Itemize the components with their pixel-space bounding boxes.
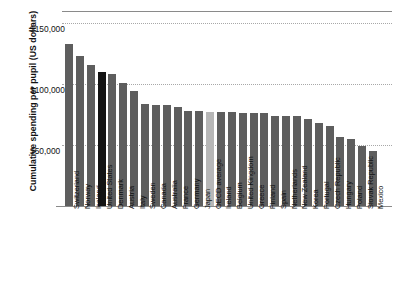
x-axis-tick-label: Canada [159,183,168,209]
y-axis-tick-label: $50,000 [30,146,60,156]
x-axis-tick-label: Australia [170,180,179,209]
x-axis-tick-label: Norway [83,184,92,209]
x-axis-tick-label: Greece [257,185,266,209]
x-axis-tick-label: Slovak Republic [366,156,375,209]
x-axis-tick-label: Belgium [235,182,244,209]
y-axis-title-container: Cumulative spending per pupil (US dollar… [0,0,26,212]
x-axis-tick-label: Finland [268,185,277,209]
x-axis-tick-label: Netherlands [290,169,299,209]
y-axis-tick-label: $150,000 [30,24,65,34]
x-axis-tick-label: Germany [192,179,201,209]
x-axis-tick-label: Iceland [94,185,103,209]
x-axis-tick-label: Czech Republic [333,157,342,209]
x-axis-tick-label: Poland [355,186,364,209]
chart-figure: Cumulative spending per pupil (US dollar… [0,0,404,294]
x-axis-tick-label: OECD average [214,159,223,209]
x-axis-tick-label: United States [105,165,114,209]
x-axis-tick-label: Austria [127,186,136,209]
x-axis-tick-label: United Kingdom [246,156,255,209]
x-axis-tick-label: Portugal [322,181,331,209]
x-axis-tick-label: Korea [311,189,320,209]
x-axis-tick-label: Denmark [116,179,125,209]
x-axis-tick-label: Ireland [224,186,233,209]
x-axis-tick-label: Sweden [148,182,157,209]
x-axis-tick-label: Switzerland [72,171,81,209]
x-axis-tick-label: Italy [138,195,147,209]
x-axis-tick-label: New Zealand [300,165,309,209]
x-axis-tick-label: Spain [279,190,288,209]
x-axis-tick-label: Hungary [344,181,353,209]
x-axis-tick-label: Japan [203,189,212,209]
x-axis-tick-label: France [181,186,190,209]
y-axis-tick-label: $100,000 [30,85,65,95]
x-axis-tick-label: Mexico [376,186,385,209]
x-axis-tick-labels: SwitzerlandNorwayIcelandUnited StatesDen… [62,209,392,294]
